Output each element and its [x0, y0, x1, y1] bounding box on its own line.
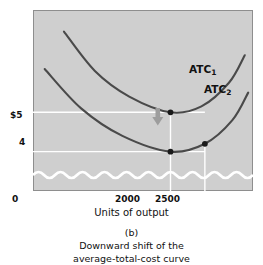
curve-label-atc2-subscript: 2: [226, 88, 231, 97]
chart-figure: $5 4 0 2000 2500 ATC1 ATC2 Units of outp…: [0, 0, 263, 265]
x-axis-title: Units of output: [0, 207, 263, 218]
curve-atc2: [45, 69, 249, 152]
curve-label-atc1: ATC1: [189, 63, 216, 75]
curve-label-atc2: ATC2: [204, 83, 231, 95]
caption-line-1: Downward shift of the: [0, 240, 263, 251]
axis-break-wave: [33, 172, 253, 178]
caption-line-2: average-total-cost curve: [0, 253, 263, 264]
x-tick-label-2000: 2000: [115, 194, 140, 204]
x-tick-label-0: 0: [12, 194, 18, 204]
chart-canvas: [33, 10, 253, 191]
panel-label: (b): [0, 227, 263, 238]
y-tick-label-5: $5: [10, 110, 23, 120]
curve-atc1: [64, 32, 245, 113]
curve-label-atc2-text: ATC: [204, 83, 226, 95]
x-tick-label-2500: 2500: [155, 194, 180, 204]
data-point-marker: [168, 109, 174, 115]
y-tick-label-4: 4: [19, 137, 25, 147]
data-point-marker: [202, 141, 208, 147]
curve-label-atc1-subscript: 1: [211, 68, 216, 77]
data-point-marker: [168, 149, 174, 155]
plot-area: [33, 10, 253, 191]
curve-label-atc1-text: ATC: [189, 63, 211, 75]
